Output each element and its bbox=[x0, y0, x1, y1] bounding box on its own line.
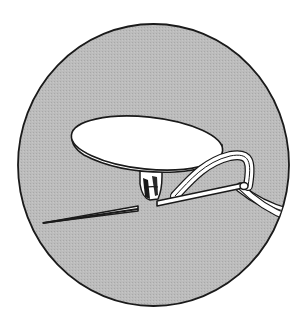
illustration-canvas: sewing a button with needle and thread bbox=[0, 0, 305, 319]
sewing-button-illustration bbox=[0, 0, 305, 319]
button-shank bbox=[140, 170, 162, 200]
needle-eye bbox=[240, 183, 248, 190]
